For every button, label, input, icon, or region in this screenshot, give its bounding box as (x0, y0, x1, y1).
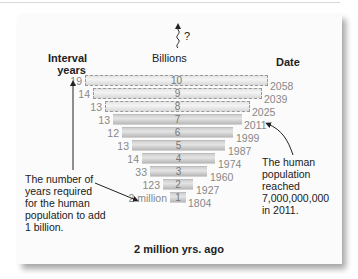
interval-pointer-arrow-icon (95, 183, 136, 200)
arrows-overlay (0, 0, 358, 279)
future-growth-squiggle-icon (177, 26, 179, 48)
milestone-pointer-arrow-icon (268, 124, 293, 155)
